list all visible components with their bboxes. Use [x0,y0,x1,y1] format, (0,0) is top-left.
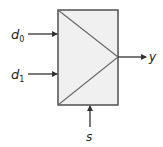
output-y-label: y [148,50,157,64]
mux-diagram: d0 d1 y s [0,0,163,147]
select-s-label: s [86,130,92,144]
mux-body [58,10,118,105]
input-d0-label: d0 [11,27,24,44]
input-d1-label: d1 [11,67,24,84]
